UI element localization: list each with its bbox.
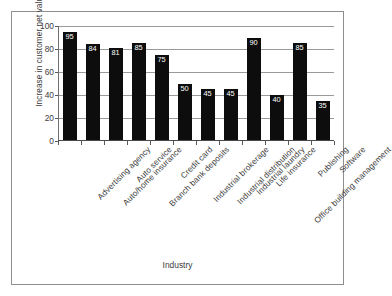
bar-value-label: 75	[156, 56, 166, 64]
y-tick-label: 80	[45, 44, 54, 54]
y-tick-label: 40	[45, 90, 54, 100]
y-axis-title: Increase in customer net value	[35, 0, 44, 125]
bar-slot: 40	[265, 26, 288, 141]
bar-slot: 35	[311, 26, 334, 141]
bar-slot: 85	[127, 26, 150, 141]
bar[interactable]: 85	[132, 43, 146, 141]
bar[interactable]: 95	[63, 32, 77, 141]
bar[interactable]: 45	[224, 89, 238, 141]
bar[interactable]: 75	[155, 55, 169, 141]
bar-series: 958481857550454590408535	[58, 26, 334, 141]
bar-slot: 81	[104, 26, 127, 141]
bar-value-label: 84	[87, 45, 97, 53]
bar-value-label: 40	[271, 96, 281, 104]
y-tick-label: 0	[49, 136, 54, 146]
bar[interactable]: 84	[86, 44, 100, 141]
bar-value-label: 45	[225, 90, 235, 98]
bar-value-label: 45	[202, 90, 212, 98]
bar[interactable]: 40	[270, 95, 284, 141]
plot-area: 020406080100 958481857550454590408535	[58, 26, 334, 141]
x-tick-mark	[334, 141, 335, 145]
chart-frame: Increase in customer net value 020406080…	[11, 11, 344, 285]
x-axis-title: Industry	[12, 260, 343, 270]
bar-value-label: 35	[317, 102, 327, 110]
bar-slot: 84	[81, 26, 104, 141]
bar[interactable]: 85	[293, 43, 307, 141]
bar-value-label: 90	[248, 39, 258, 47]
bar-slot: 85	[288, 26, 311, 141]
y-tick-label: 100	[40, 21, 54, 31]
y-tick-label: 60	[45, 67, 54, 77]
bar-slot: 45	[219, 26, 242, 141]
bar-slot: 50	[173, 26, 196, 141]
y-tick-label: 20	[45, 113, 54, 123]
bar-value-label: 50	[179, 85, 189, 93]
bar-value-label: 95	[64, 33, 74, 41]
bar[interactable]: 81	[109, 48, 123, 141]
bar-slot: 90	[242, 26, 265, 141]
bar-slot: 95	[58, 26, 81, 141]
bar-slot: 45	[196, 26, 219, 141]
bar[interactable]: 90	[247, 38, 261, 142]
bar[interactable]: 45	[201, 89, 215, 141]
x-axis-category-labels: Advertising agencyAuto/home insuranceAut…	[58, 145, 334, 255]
bar-value-label: 81	[110, 49, 120, 57]
bar-slot: 75	[150, 26, 173, 141]
bar[interactable]: 50	[178, 84, 192, 142]
bar-value-label: 85	[133, 44, 143, 52]
bar-value-label: 85	[294, 44, 304, 52]
bar[interactable]: 35	[316, 101, 330, 141]
